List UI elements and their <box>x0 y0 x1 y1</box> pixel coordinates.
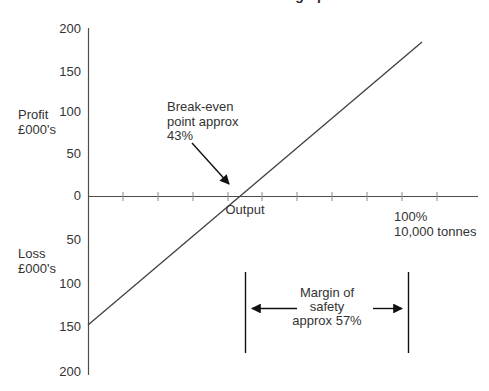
loss-axis-label-line1: Loss <box>18 246 78 261</box>
break-even-annotation-line3: 43% <box>167 129 267 144</box>
x-max-quantity: 10,000 tonnes <box>394 224 484 239</box>
y-tick-200-profit: 200 <box>41 21 81 37</box>
chart-title: Break-even graph <box>200 0 350 4</box>
y-tick-50-profit: 50 <box>41 146 81 162</box>
break-even-annotation: Break-even point approx 43% <box>167 100 267 144</box>
break-even-annotation-line1: Break-even <box>167 100 267 115</box>
profit-loss-line <box>88 42 422 325</box>
break-even-arrow <box>192 143 229 184</box>
margin-of-safety-line1: Margin of <box>284 286 370 300</box>
profit-axis-label-line1: Profit <box>18 107 78 122</box>
profit-axis-label-line2: £000's <box>18 122 78 137</box>
y-tick-150-loss: 150 <box>41 319 81 335</box>
x-max-label: 100% 10,000 tonnes <box>394 209 484 239</box>
margin-of-safety-line2: safety <box>284 300 370 314</box>
profit-axis-label: Profit £000's <box>18 107 78 137</box>
y-tick-200-loss: 200 <box>41 364 81 380</box>
break-even-annotation-line2: point approx <box>167 115 267 130</box>
break-even-chart: Break-even graph 200 150 100 50 0 50 100… <box>0 0 489 391</box>
margin-of-safety-line3: approx 57% <box>284 314 370 328</box>
loss-axis-label: Loss £000's <box>18 246 78 276</box>
x-axis-label: Output <box>220 202 270 217</box>
y-tick-zero: 0 <box>41 188 81 204</box>
x-max-percent: 100% <box>394 209 484 224</box>
y-tick-100-loss: 100 <box>41 276 81 292</box>
y-tick-150-profit: 150 <box>41 64 81 80</box>
margin-of-safety-annotation: Margin of safety approx 57% <box>284 286 370 328</box>
loss-axis-label-line2: £000's <box>18 261 78 276</box>
